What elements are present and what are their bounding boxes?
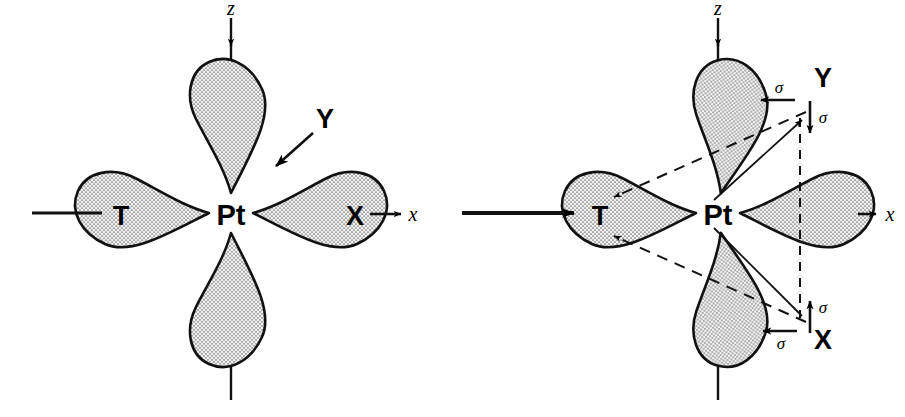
orbital-diagram: Pt T X x z Y [0,0,905,417]
x-ligand-label-right: X [814,325,832,355]
sigma-label-x-vertical: σ [819,298,828,317]
y-ligand-label: Y [316,104,334,134]
pt-center-label: Pt [217,199,246,231]
x-axis-label-right: x [885,203,895,225]
y-ligand-label-right: Y [814,63,832,93]
z-axis-label-right: z [713,0,722,19]
sigma-label-x-horizontal: σ [777,334,786,353]
figure-canvas: Pt T X x z Y [0,0,905,417]
t-ligand-label-right: T [592,201,609,231]
sigma-label-y-vertical: σ [819,108,828,127]
z-axis-label: z [226,0,235,19]
pt-center-label-right: Pt [704,199,733,231]
x-axis-label: x [408,203,418,225]
x-ligand-label: X [346,201,364,231]
t-ligand-label: T [113,201,130,231]
sigma-label-y-horizontal: σ [775,78,784,97]
